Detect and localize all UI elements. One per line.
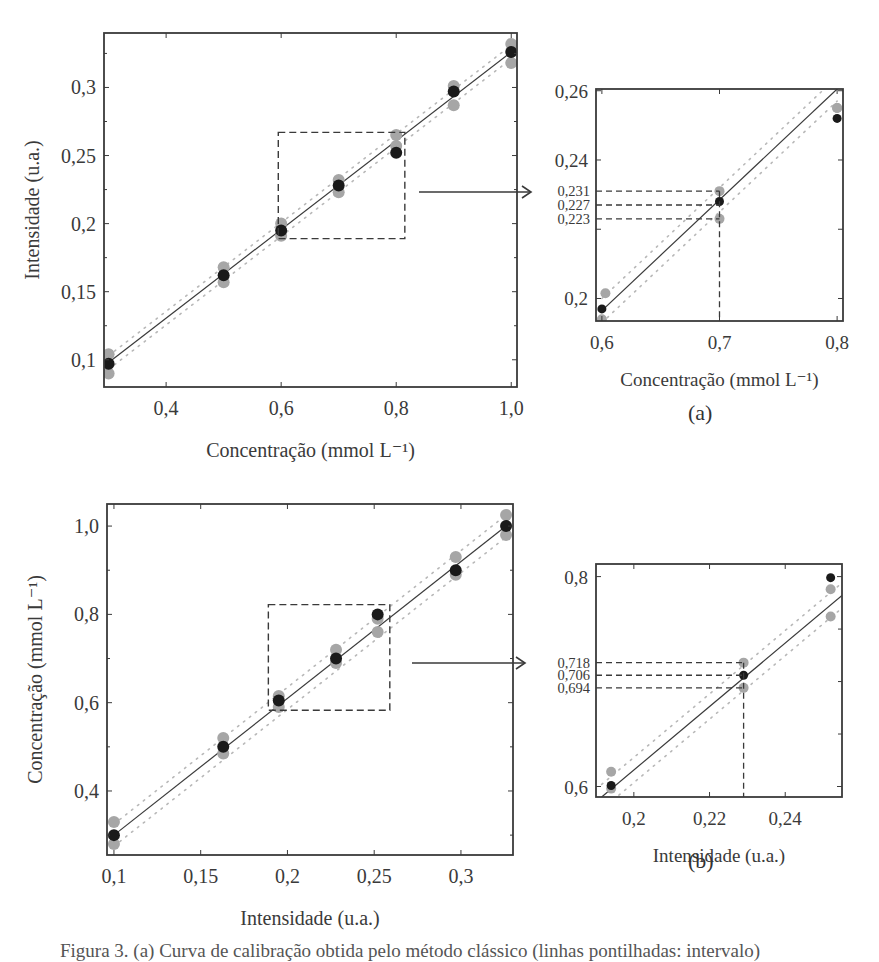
- mean-data-point: [448, 86, 460, 98]
- x-tick-label: 0,3: [448, 865, 473, 887]
- x-tick-label: 0,8: [384, 397, 409, 419]
- mean-data-point: [333, 179, 345, 191]
- replicate-data-point: [832, 103, 842, 113]
- regression-line: [602, 595, 842, 797]
- replicate-data-point: [600, 288, 610, 298]
- x-tick-label: 0,15: [183, 865, 218, 887]
- plot-a-main: 0,40,60,81,00,10,150,20,250,3Concentraçã…: [21, 33, 531, 462]
- mean-data-point: [273, 694, 285, 706]
- y-tick-label: 0,8: [74, 603, 99, 625]
- x-axis-title: Intensidade (u.a.): [240, 907, 379, 930]
- mean-data-point: [275, 224, 287, 236]
- mean-data-point: [372, 608, 384, 620]
- plot-area: [597, 77, 842, 324]
- replicate-data-point: [372, 626, 384, 638]
- replicate-data-point: [500, 509, 512, 521]
- x-tick-label: 0,24: [769, 808, 803, 829]
- y-tick-label: 0,26: [555, 81, 588, 102]
- y-axis-title: Concentração (mmol L⁻¹): [24, 575, 47, 784]
- x-axis-title: Concentração (mmol L⁻¹): [620, 369, 818, 391]
- y-tick-label: 0,8: [564, 567, 588, 588]
- figure-caption: Figura 3. (a) Curva de calibração obtida…: [60, 940, 760, 962]
- x-tick-label: 0,25: [357, 865, 392, 887]
- mean-data-point: [218, 269, 230, 281]
- mean-data-point: [505, 46, 517, 58]
- x-tick-label: 0,4: [154, 397, 179, 419]
- lower-confidence-line: [114, 537, 506, 846]
- y-tick-label: 0,15: [61, 281, 96, 303]
- regression-line: [109, 52, 512, 362]
- y-tick-label: 1,0: [74, 515, 99, 537]
- plot-a-inset: 0,2310,2270,2230,60,70,80,20,240,26Conce…: [555, 77, 849, 391]
- panel-label-a: (a): [688, 400, 712, 426]
- plot-area: [602, 573, 842, 809]
- replicate-data-point: [826, 584, 836, 594]
- replicate-data-point: [108, 816, 120, 828]
- y-tick-label: 0,4: [74, 780, 99, 802]
- y-tick-label: 0,6: [564, 777, 588, 798]
- mean-data-point: [597, 304, 606, 313]
- x-tick-label: 0,7: [708, 332, 732, 353]
- plot-area: [103, 38, 518, 379]
- mean-data-point: [607, 781, 616, 790]
- mean-data-point: [450, 564, 462, 576]
- replicate-data-point: [390, 129, 402, 141]
- mean-data-point: [826, 573, 835, 582]
- plot-b-inset: 0,7180,7060,6940,20,220,240,60,8Intensid…: [557, 564, 842, 867]
- x-tick-label: 0,1: [101, 865, 126, 887]
- y-tick-label: 0,3: [71, 76, 96, 98]
- x-tick-label: 0,2: [622, 808, 646, 829]
- y-tick-label: 0,24: [555, 150, 589, 171]
- x-tick-label: 0,8: [825, 332, 849, 353]
- y-tick-label: 0,6: [74, 692, 99, 714]
- x-tick-label: 1,0: [499, 397, 524, 419]
- mean-data-point: [330, 653, 342, 665]
- replicate-data-point: [505, 57, 517, 69]
- mean-data-point: [833, 114, 842, 123]
- guide-value-label: 0,694: [557, 680, 590, 696]
- lower-confidence-line: [602, 608, 842, 810]
- y-tick-label: 0,25: [61, 145, 96, 167]
- y-tick-label: 0,2: [564, 288, 588, 309]
- zoom-region-box: [268, 605, 389, 711]
- x-tick-label: 0,2: [275, 865, 300, 887]
- x-tick-label: 0,6: [590, 332, 614, 353]
- upper-confidence-line: [602, 583, 842, 785]
- replicate-data-point: [450, 551, 462, 563]
- x-axis-title: Intensidade (u.a.): [653, 845, 785, 867]
- y-tick-label: 0,2: [71, 213, 96, 235]
- y-axis-title: Intensidade (u.a.): [21, 140, 44, 279]
- plot-b-main: 0,10,150,20,250,30,40,60,81,0Intensidade…: [24, 504, 525, 930]
- mean-data-point: [390, 147, 402, 159]
- axes-frame: [596, 564, 842, 797]
- guide-value-label: 0,223: [557, 211, 590, 227]
- regression-line: [114, 526, 506, 835]
- x-tick-label: 0,22: [693, 808, 726, 829]
- mean-data-point: [217, 741, 229, 753]
- replicate-data-point: [448, 99, 460, 111]
- panel-label-b: (b): [688, 848, 714, 874]
- upper-confidence-line: [114, 515, 506, 824]
- replicate-data-point: [606, 767, 616, 777]
- plot-area: [108, 509, 512, 850]
- replicate-data-point: [826, 611, 836, 621]
- x-tick-label: 0,6: [269, 397, 294, 419]
- x-axis-title: Concentração (mmol L⁻¹): [206, 439, 415, 462]
- y-tick-label: 0,1: [71, 349, 96, 371]
